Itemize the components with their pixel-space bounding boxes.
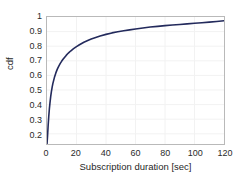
y-tick-label: 0.8 [29,41,42,50]
x-axis-title: Subscription duration [sec] [46,161,225,172]
x-tick-label: 100 [188,149,203,158]
cdf-chart-figure: 0.20.30.40.50.60.70.80.91 02040608010012… [0,0,246,178]
x-tick-label: 40 [101,149,111,158]
y-tick-label: 0.5 [29,86,42,95]
y-axis-tick-labels: 0.20.30.40.50.60.70.80.91 [0,16,42,145]
x-tick-label: 20 [71,149,81,158]
y-tick-label: 0.2 [29,130,42,139]
x-tick-label: 0 [43,149,48,158]
x-axis-tick-labels: 020406080100120 [46,149,225,161]
y-tick-label: 0.3 [29,115,42,124]
y-tick-label: 0.6 [29,71,42,80]
plot-area [46,16,225,145]
y-tick-label: 1 [37,12,42,21]
y-tick-label: 0.7 [29,56,42,65]
x-tick-label: 120 [217,149,232,158]
x-tick-label: 80 [160,149,170,158]
x-tick-label: 60 [130,149,140,158]
cdf-curve-layer [47,17,224,144]
y-tick-label: 0.4 [29,100,42,109]
y-tick-label: 0.9 [29,26,42,35]
y-axis-title: cdf [5,57,15,70]
cdf-curve [47,21,224,144]
